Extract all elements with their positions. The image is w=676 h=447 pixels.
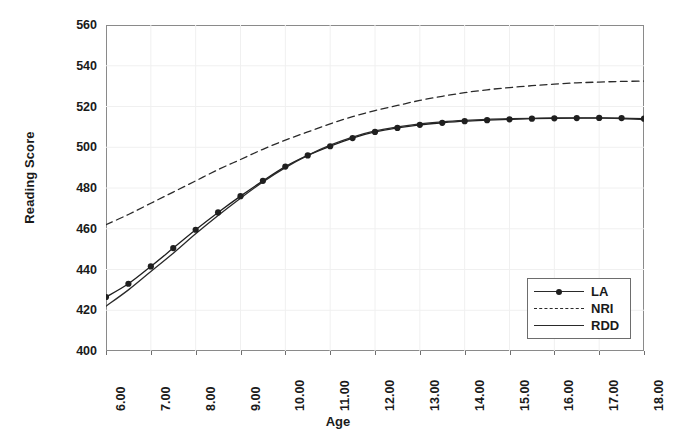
x-axis-title: Age	[0, 414, 676, 429]
legend-item-la[interactable]: LA	[528, 283, 630, 300]
x-tick-mark	[285, 351, 286, 355]
legend-label: LA	[584, 285, 608, 298]
x-tick-label: 8.00	[204, 357, 218, 411]
x-tick-label: 15.00	[518, 357, 532, 411]
x-tick-mark	[644, 351, 645, 355]
x-tick-label: 14.00	[473, 357, 487, 411]
legend-line-icon	[534, 325, 584, 326]
x-tick-label: 13.00	[428, 357, 442, 411]
legend-item-nri[interactable]: NRI	[528, 300, 630, 317]
legend-swatch-nri-icon	[534, 303, 584, 315]
legend-item-rdd[interactable]: RDD	[528, 317, 630, 334]
x-tick-label: 11.00	[338, 357, 352, 411]
legend-swatch-rdd-icon	[534, 320, 584, 332]
x-tick-label: 10.00	[293, 357, 307, 411]
x-tick-label: 12.00	[383, 357, 397, 411]
x-tick-label: 16.00	[562, 357, 576, 411]
x-axis-tick-labels: 6.007.008.009.0010.0011.0012.0013.0014.0…	[0, 0, 676, 447]
legend-marker-icon	[556, 289, 562, 295]
x-tick-mark	[599, 351, 600, 355]
x-tick-mark	[196, 351, 197, 355]
x-tick-label: 6.00	[114, 357, 128, 411]
x-tick-mark	[106, 351, 107, 355]
x-tick-label: 7.00	[159, 357, 173, 411]
x-tick-mark	[465, 351, 466, 355]
chart-legend: LANRIRDD	[527, 278, 631, 339]
x-tick-label: 9.00	[249, 357, 263, 411]
legend-line-icon	[534, 308, 584, 309]
x-tick-label: 17.00	[607, 357, 621, 411]
x-tick-mark	[420, 351, 421, 355]
x-tick-mark	[554, 351, 555, 355]
x-tick-label: 18.00	[652, 357, 666, 411]
legend-swatch-la-icon	[534, 286, 584, 298]
x-tick-mark	[510, 351, 511, 355]
legend-label: RDD	[584, 319, 619, 332]
x-tick-mark	[330, 351, 331, 355]
x-tick-mark	[151, 351, 152, 355]
chart-container: Reading Score 56054052050048046044042040…	[0, 0, 676, 447]
x-tick-mark	[241, 351, 242, 355]
x-tick-mark	[375, 351, 376, 355]
legend-label: NRI	[584, 302, 613, 315]
